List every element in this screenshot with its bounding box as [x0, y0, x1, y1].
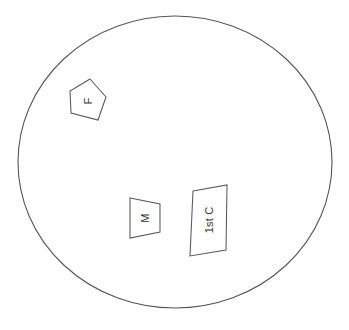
diagram-background	[0, 0, 349, 330]
region-m-label: M	[139, 213, 151, 222]
region-group-m[interactable]: M	[130, 198, 160, 238]
region-f-label: F	[82, 97, 94, 104]
region-1st-c-label: 1st C	[203, 207, 215, 234]
plan-diagram: F M 1st C	[0, 0, 349, 330]
diagram-canvas: F M 1st C	[0, 0, 349, 330]
region-group-1st-c[interactable]: 1st C	[190, 185, 227, 256]
